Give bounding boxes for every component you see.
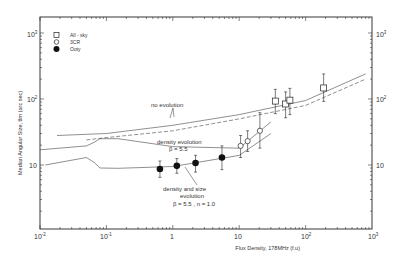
y-tick-label: 103 — [376, 30, 387, 38]
error-bars — [158, 74, 325, 177]
model-curves — [40, 74, 366, 168]
annotation-density-size: density and size — [163, 186, 207, 192]
filled-circle-marker — [192, 160, 199, 167]
y-tick-label: 10 — [376, 162, 384, 169]
open-square-marker — [287, 97, 293, 103]
x-tick-label: 102 — [301, 232, 312, 240]
annotations: no evolution density evolution β = 5.5 d… — [151, 102, 216, 207]
annotation-no-evolution: no evolution — [151, 102, 183, 108]
x-axis-ticks — [40, 17, 369, 229]
plot-frame — [40, 17, 372, 229]
x-tick-label: 103 — [368, 232, 379, 240]
open-square-icon — [54, 33, 59, 38]
x-tick-label: 10-2 — [34, 232, 46, 240]
y-tick-label: 103 — [27, 30, 38, 38]
x-tick-labels: 10-2 10-1 1 10 102 103 — [34, 232, 379, 240]
annotation-density-size-evolution: evolution — [180, 193, 204, 199]
y-axis-title: Median Angular Size, θm (arc sec) — [17, 91, 23, 175]
open-square-marker — [272, 98, 278, 104]
y-tick-label: 102 — [376, 95, 387, 103]
legend-label-ooty: Ooty — [70, 46, 81, 52]
y-tick-label: 102 — [27, 95, 38, 103]
annotation-density-size-params: β = 5.5 , n = 1.0 — [173, 201, 216, 207]
x-tick-label: 10-1 — [100, 232, 112, 240]
y-tick-label: 10 — [29, 162, 37, 169]
model-curve — [40, 122, 271, 150]
open-circle-icon — [54, 40, 59, 45]
y-tick-labels-left: 10 102 103 — [27, 30, 38, 169]
x-tick-label: 1 — [170, 233, 174, 240]
filled-circle-marker — [219, 154, 226, 161]
open-circle-marker — [238, 143, 243, 148]
filled-circle-marker — [157, 166, 164, 173]
legend: All - sky 3CR Ooty — [54, 32, 89, 52]
open-square-marker — [321, 85, 327, 91]
open-circle-marker — [245, 139, 250, 144]
filled-circle-marker — [174, 163, 181, 170]
model-curve — [57, 74, 366, 136]
annotation-density-beta: β = 5.5 — [169, 146, 188, 152]
angular-size-flux-chart: 10-2 10-1 1 10 102 103 10 102 103 10 102… — [0, 0, 399, 266]
y-axis-ticks — [40, 33, 372, 211]
x-axis-title: Flux Density, 178MHz (f.u) — [235, 245, 300, 251]
y-tick-labels-right: 10 102 103 — [376, 30, 387, 169]
data-markers — [157, 85, 327, 172]
x-tick-label: 10 — [234, 233, 242, 240]
filled-circle-icon — [54, 46, 60, 52]
legend-label-all-sky: All - sky — [70, 32, 88, 38]
open-circle-marker — [257, 128, 262, 133]
annotation-density-evolution: density evolution — [157, 139, 202, 145]
legend-label-3cr: 3CR — [70, 39, 80, 45]
